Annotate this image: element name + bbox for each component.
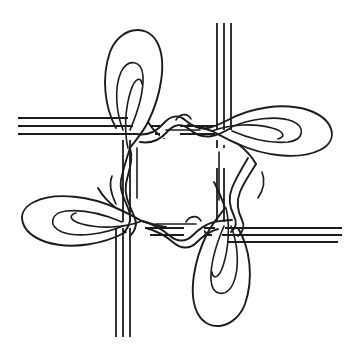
left-horizontal-bundle [18,118,136,134]
top-loop [105,30,164,176]
bottom-loop [192,182,250,326]
bottom-vertical-bundle [116,228,130,337]
top-vertical-bundle [217,23,231,130]
knot-diagram-figure: Woven cord knot diagram Line drawing of … [0,0,359,355]
knot-illustration [0,0,359,355]
